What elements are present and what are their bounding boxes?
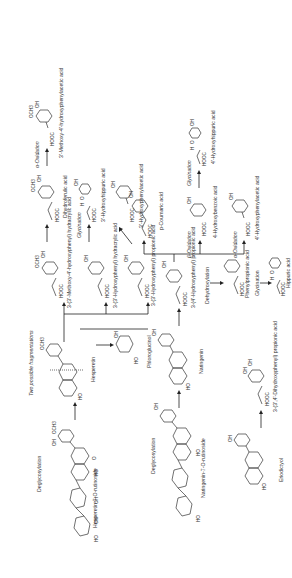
svg-text:OH: OH (229, 193, 234, 200)
svg-text:H: H (270, 277, 275, 280)
svg-text:HOOC: HOOC (183, 292, 188, 306)
svg-text:HOOC: HOOC (148, 224, 153, 238)
svg-text:OH: OH (124, 255, 129, 262)
arrow-glycination-p-hydroxyhippuric (196, 170, 202, 188)
svg-text:HOOC: HOOC (246, 222, 251, 236)
dihydroferulic-label: Dihydroferulic acid (62, 175, 68, 218)
naringenin-structure-icon: HO OH (156, 328, 196, 388)
arrow-deglycosylation-naringin (176, 390, 182, 408)
hesperidin-label: Hesperetin-7-O-rutinoside (92, 468, 98, 528)
svg-text:HOOC: HOOC (202, 222, 207, 236)
svg-text:HOOC: HOOC (59, 284, 64, 298)
svg-text:OCH3: OCH3 (29, 105, 34, 118)
svg-text:HO: HO (134, 357, 139, 364)
svg-text:O: O (80, 196, 85, 200)
methoxy-phenylacetic-structure-icon: HOOC OCH3 OH (30, 100, 56, 146)
svg-text:OCH3: OCH3 (52, 421, 57, 434)
arrow-eriodictyol (258, 410, 264, 428)
svg-text:OH: OH (129, 191, 134, 198)
p-hydroxyhippuric-structure-icon: HOOC H O OH (186, 116, 208, 166)
deglycosylation-label-2: Deglycosylation (150, 438, 156, 474)
p-hydroxyphenylacetic-label: 4'-Hydroxyphenylacetic acid (254, 176, 260, 240)
hesperetin-label: Hesperetin (90, 357, 96, 382)
methoxy-phenylacetic-label: 3'-Methoxy-4'-hydroxyphenylacetic acid (58, 68, 64, 159)
arrow-alpha-oxidation-1 (44, 148, 50, 166)
svg-text:HO: HO (196, 515, 201, 522)
svg-text:OH: OH (248, 359, 253, 366)
hippuric-label: Hippuric acid (285, 258, 291, 288)
branch-lines-hesperetin (60, 302, 150, 342)
svg-text:HO: HO (186, 383, 191, 390)
m-hydroxyhippuric-label: 3'-Hydroxyhippuric acid (100, 168, 106, 222)
p-coumaric-label: p-Coumaric acid (158, 192, 164, 230)
svg-text:OH: OH (111, 181, 116, 188)
p-hydroxyphenylacetic-structure-icon: HOOC OH (230, 192, 252, 236)
svg-text:O: O (190, 140, 195, 144)
m-hydroxyhippuric-structure-icon: HOOC H O OH (76, 174, 98, 222)
hippuric-structure-icon: HOOC H O (268, 252, 286, 296)
naringenin-label: Naringenin (198, 349, 204, 374)
dihydroxy-propionic-structure-icon: HOOC OH OH (244, 362, 270, 406)
svg-text:OH: OH (187, 197, 192, 204)
hydroxy-hydracrylic-structure-icon: HOOC OH (84, 248, 110, 298)
eriodictyol-label: Eriodictyol (278, 458, 284, 482)
p-coumaric-structure-icon: HOOC OH (130, 188, 154, 238)
svg-text:OH: OH (52, 439, 57, 446)
svg-text:OH: OH (228, 435, 233, 442)
p-hydroxybenzoic-label: 4-Hydroxybenzoic acid (212, 186, 218, 238)
svg-text:OH: OH (162, 261, 167, 268)
two-fragmentations-label: Two possible fragmentations (28, 330, 34, 396)
svg-text:OH: OH (152, 329, 157, 336)
phenylpropionic-structure-icon: HOOC (222, 256, 244, 296)
hesperidin-structure-icon: HO OH OH HO O OH OCH3 (40, 422, 110, 542)
svg-text:HOOC: HOOC (105, 284, 110, 298)
svg-text:O: O (270, 270, 275, 274)
svg-text:OH: OH (37, 175, 42, 182)
deglycosylation-label-1: Deglycosylation (36, 456, 42, 492)
svg-text:OH: OH (154, 403, 159, 410)
arrow-deglycosylation-hesperidin (72, 402, 78, 420)
arrow-glycination-m-hydroxyhippuric (86, 224, 92, 242)
svg-text:OH: OH (190, 119, 195, 126)
naringin-label: Naringenin-7-O-rutinoside (200, 438, 206, 498)
p-hydroxybenzoic-structure-icon: HOOC OH (188, 196, 210, 236)
dihydroferulic-structure-icon: HOOC OCH3 OH (32, 172, 60, 222)
svg-text:O: O (92, 456, 97, 460)
svg-text:HOOC: HOOC (202, 152, 207, 166)
svg-text:HOOC: HOOC (265, 392, 270, 406)
svg-text:H: H (80, 203, 85, 206)
svg-text:HOOC: HOOC (92, 208, 97, 222)
svg-text:H: H (190, 147, 195, 150)
eriodictyol-structure-icon: HO OH (232, 428, 272, 488)
svg-text:OCH3: OCH3 (35, 255, 40, 268)
p-hydroxyhippuric-label: 4'-Hydroxyhippuric acid (210, 110, 216, 164)
svg-text:HOOC: HOOC (55, 208, 60, 222)
svg-text:OH: OH (41, 251, 46, 258)
svg-text:OH: OH (84, 255, 89, 262)
svg-text:OH: OH (35, 101, 40, 108)
svg-text:HO: HO (94, 535, 99, 542)
p-hydroxy-propionic-structure-icon: HOOC OH (162, 256, 188, 306)
svg-text:OCH3: OCH3 (40, 337, 45, 350)
arrow-to-dihydroferulic (44, 224, 50, 242)
svg-text:OH: OH (74, 179, 79, 186)
arrow-naringenin-to-propionic (176, 308, 182, 326)
dihydroxy-propionic-label: 3-(3',4'-Dihydroxyphenyl) propionic acid (272, 321, 278, 412)
pathway-diagram: HO OH OH HO O OH OCH3 Deglycosylation He… (0, 0, 292, 578)
arrow-to-phloroglucinol (96, 342, 114, 348)
svg-text:HO: HO (262, 483, 267, 490)
svg-text:OCH3: OCH3 (31, 179, 36, 192)
svg-text:HO: HO (78, 393, 83, 400)
svg-text:HOOC: HOOC (50, 132, 55, 146)
svg-text:OH: OH (243, 367, 248, 374)
methoxy-hydracrylic-structure-icon: HOOC OCH3 OH (36, 248, 64, 298)
